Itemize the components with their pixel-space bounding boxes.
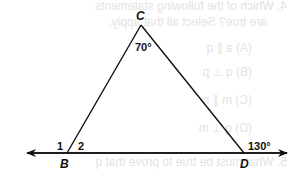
angle-c-label: 70° [135,41,152,53]
side-bc [67,25,141,153]
vertex-label-b: B [60,157,69,171]
geometry-figure: 4. Which of the following statements are… [0,0,307,180]
vertex-label-d: D [240,157,249,171]
angle-1-label: 1 [57,140,63,152]
angle-2-label: 2 [78,140,84,152]
vertex-label-c: C [136,9,145,23]
triangle-diagram: C 70° 1 2 B 130° D [0,0,307,180]
side-cd [141,25,244,153]
exterior-angle-d-label: 130° [248,140,271,152]
